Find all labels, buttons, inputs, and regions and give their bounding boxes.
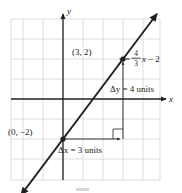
- point-label-3-2: (3, 2): [72, 47, 92, 57]
- equation-fraction-numerator: 4: [134, 49, 138, 58]
- equation-constant: − 2: [148, 54, 160, 64]
- equation-label: y = 4 3 x − 2: [118, 49, 160, 68]
- graph-line: [21, 14, 157, 193]
- x-axis-label: x: [168, 94, 173, 104]
- equation-equals: =: [125, 54, 130, 64]
- line-graph-figure: x y (3, 2) (0, −2) Δy = 4 units Δx = 3 u…: [0, 0, 182, 193]
- equation-fraction-denominator: 3: [134, 59, 138, 68]
- point-label-0-neg2: (0, −2): [8, 127, 33, 137]
- equation-lhs: y: [118, 54, 123, 64]
- y-axis-label: y: [66, 6, 71, 16]
- rise-annotation: Δy = 4 units: [110, 84, 155, 94]
- coordinate-plane-svg: x y (3, 2) (0, −2) Δy = 4 units Δx = 3 u…: [0, 0, 182, 193]
- run-annotation: Δx = 3 units: [58, 145, 103, 155]
- equation-variable: x: [141, 54, 146, 64]
- point-0-neg2: [60, 136, 65, 141]
- right-angle-marker: [113, 129, 123, 139]
- caption-remnant: [76, 188, 89, 191]
